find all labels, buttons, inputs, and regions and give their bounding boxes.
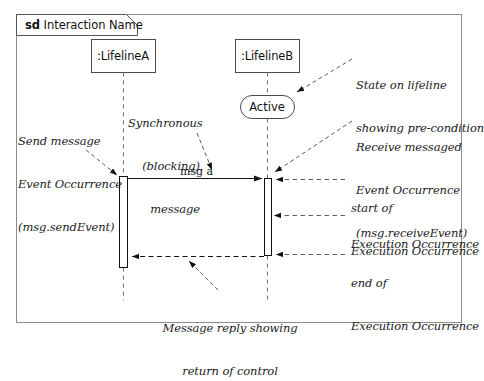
- annotation-synchronous: Synchronous (blocking) message: [128, 88, 200, 244]
- annotation-synchronous-line2: (blocking): [128, 159, 200, 173]
- frame-name: Interaction Name: [44, 18, 143, 32]
- annotation-send-event: Send message Event Occurrence (msg.sendE…: [18, 106, 133, 262]
- lifeline-b-label: :LifelineB: [235, 49, 299, 63]
- annotation-reply-note-line1: Message reply showing: [140, 321, 320, 335]
- execution-bar-b: [265, 179, 272, 256]
- annotation-end-exec: end of Execution Occurrence: [351, 248, 471, 362]
- annotation-state-note-line1: State on lifeline: [356, 78, 474, 92]
- frame-tag-label: sd Interaction Name: [25, 18, 143, 32]
- lifeline-a-label: :LifelineA: [91, 49, 155, 63]
- annotation-end-exec-line1: end of: [351, 276, 471, 290]
- annotation-send-event-line2: Event Occurrence: [18, 177, 133, 191]
- annotation-send-event-line1: Send message: [18, 134, 133, 148]
- annotation-synchronous-line1: Synchronous: [128, 116, 200, 130]
- annotation-reply-note: Message reply showing return of control: [140, 293, 320, 381]
- annotation-receive-event-line1: Receive messaged: [356, 140, 474, 154]
- annotation-end-exec-line2: Execution Occurrence: [351, 319, 471, 333]
- frame-keyword: sd: [25, 18, 40, 32]
- annotation-send-event-line3: (msg.sendEvent): [18, 220, 133, 234]
- annotation-reply-note-line2: return of control: [140, 364, 320, 378]
- state-active-label: Active: [240, 100, 294, 114]
- annotation-synchronous-line3: message: [128, 202, 200, 216]
